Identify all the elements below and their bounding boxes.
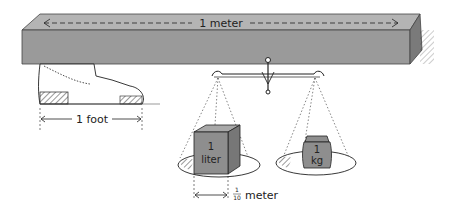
foot-label: 1 foot (76, 113, 109, 126)
weight-label-1: 1 (314, 144, 320, 155)
meter-label: 1 meter (199, 17, 243, 30)
meter-unit-label: meter (245, 189, 279, 202)
cube-label-2: liter (201, 154, 222, 165)
tenth-meter-dimension: 1 10 meter (194, 176, 279, 202)
liter-cube: 1 liter (194, 125, 240, 174)
meter-bar: 1 meter (22, 14, 434, 64)
shoe-illustration: 1 foot (39, 64, 161, 130)
cube-label-1: 1 (208, 141, 214, 152)
fraction-denominator: 10 (233, 194, 241, 201)
fraction-numerator: 1 (235, 186, 239, 193)
kg-weight: 1 kg (303, 136, 332, 168)
weight-label-2: kg (311, 155, 323, 166)
